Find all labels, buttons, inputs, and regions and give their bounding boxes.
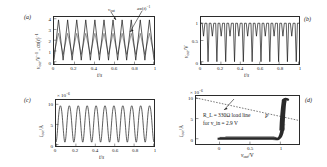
panel-b-xtick-4: 0.8	[277, 66, 283, 71]
panel-c-ytick-1: 5	[41, 122, 53, 127]
panel-a-xtick-2: 0.4	[91, 66, 97, 71]
panel-a-tag: (a)	[24, 14, 31, 20]
panel-a-ytick-4: 4	[44, 16, 51, 21]
panel-d-annotation-line2: for v_in = 2.9 V	[203, 119, 250, 127]
panel-c-xtick-2: 0.4	[92, 148, 98, 153]
panel-c-xtick-5: 1	[154, 148, 157, 153]
panel-d-annotation: R_L = 330Ω load line for v_in = 2.9 V	[203, 111, 250, 127]
panel-c-ytick-0: 0	[41, 143, 53, 148]
panel-a-ytick-2: 2	[44, 38, 51, 43]
panel-b-xtick-5: 1	[299, 66, 302, 71]
panel-b-ytick-2: 1	[186, 20, 198, 25]
panel-b-xtick-3: 0.6	[257, 66, 263, 71]
panel-b-xtick-0: 0	[199, 66, 202, 71]
panel-a-xtick-0: 0	[52, 66, 55, 71]
panel-b-xtick-1: 0.2	[217, 66, 223, 71]
panel-c-xtick-4: 0.8	[132, 148, 138, 153]
panel-d-exponent: × 10−6	[190, 89, 203, 95]
panel-a-ylabel: vout/V−1 , ax(t)−1	[35, 33, 42, 69]
panel-d-annotation-line1: R_L = 330Ω load line	[203, 111, 250, 119]
panel-c-xlabel: t/s	[99, 154, 104, 160]
panel-a-xlabel: t/s	[97, 72, 102, 78]
panel-c-plot-area	[55, 99, 155, 147]
panel-b-xlabel: t/s	[244, 72, 249, 78]
panel-c-xtick-0: 0	[54, 148, 57, 153]
panel-d-xtick-2: 1	[280, 146, 283, 151]
panel-d-point-label: P	[265, 113, 268, 120]
panel-b-ytick-0: 0	[186, 60, 198, 65]
panel-d-xtick-1: 0.5	[247, 146, 253, 151]
panel-c-exponent: × 10−6	[57, 92, 70, 98]
panel-a-leader-vout	[106, 11, 118, 21]
panel-a-xtick-5: 1	[154, 66, 157, 71]
panel-d-ytick-2: 10	[181, 95, 193, 100]
panel-b-ylabel: vout/V	[183, 45, 190, 58]
panel-d-ytick-1: 5	[181, 116, 193, 121]
panel-a-leader-axt	[128, 10, 144, 34]
panel-d-tag: (d)	[305, 97, 312, 103]
panel-d-ytick-0: 0	[181, 137, 193, 142]
panel-c-curve	[56, 100, 154, 146]
panel-d-xlabel: vout/V	[241, 152, 254, 159]
panel-c-xtick-3: 0.6	[112, 148, 118, 153]
panel-b-ytick-1: 0.5	[186, 38, 198, 43]
panel-d-ylabel: iout/A	[178, 125, 185, 137]
panel-a-ytick-0: 0	[44, 60, 51, 65]
panel-b-xtick-2: 0.4	[237, 66, 243, 71]
figure-4-panel-plot: (a) vout/V−1 , ax(t)−1 0 1 2 3 4	[0, 0, 327, 167]
panel-b-tag: (b)	[304, 16, 311, 22]
panel-a-ytick-1: 1	[44, 49, 51, 54]
panel-a-ytick-3: 3	[44, 27, 51, 32]
panel-a-xtick-1: 0.2	[70, 66, 76, 71]
panel-a-xtick-4: 0.8	[131, 66, 137, 71]
panel-b-curve	[201, 17, 299, 64]
panel-d-leader-loadline	[222, 98, 236, 112]
panel-d-xtick-0: 0	[218, 146, 221, 151]
panel-c-xtick-1: 0.2	[72, 148, 78, 153]
panel-c-ytick-2: 10	[41, 101, 53, 106]
panel-c-tag: (c)	[24, 97, 31, 103]
panel-a-xtick-3: 0.6	[111, 66, 117, 71]
panel-b-plot-area	[200, 16, 300, 65]
